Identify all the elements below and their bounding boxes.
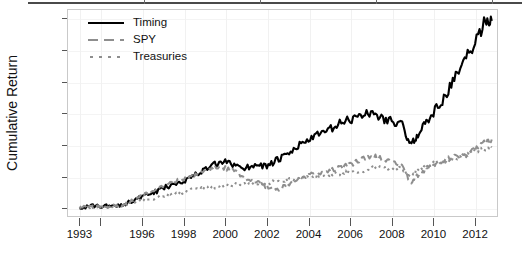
top-rule-divider <box>492 0 493 4</box>
legend-item-label: Treasuries <box>133 51 187 63</box>
legend-item-timing[interactable]: Timing <box>88 14 228 31</box>
x-axis-tick-label: 1993 <box>67 229 93 241</box>
legend-item-spy[interactable]: SPY <box>88 31 228 48</box>
x-axis-tick <box>100 218 101 226</box>
x-axis-tick <box>225 218 226 226</box>
y-axis-title-label: Cumulative Return <box>5 55 19 171</box>
x-axis-tick-label: 2008 <box>379 229 405 241</box>
x-axis-tick-label: 2010 <box>421 229 447 241</box>
x-axis-tick <box>392 218 393 226</box>
x-axis: 1993199619982000200220042006200820102012 <box>67 218 498 252</box>
document-top-rule <box>28 2 522 4</box>
legend-item-label: Timing <box>133 17 167 29</box>
x-axis-tick <box>79 218 80 226</box>
chart-figure: Cumulative Return 1993199619982000200220… <box>0 0 522 256</box>
x-axis-tick <box>184 218 185 226</box>
line-key-dotted-icon <box>88 52 124 62</box>
y-axis-tick-label: 12 <box>270 18 281 256</box>
x-axis-tick <box>142 218 143 226</box>
x-axis-tick <box>350 218 351 226</box>
chart-legend: TimingSPYTreasuries <box>88 14 228 65</box>
x-axis-tick <box>475 218 476 226</box>
top-rule-divider <box>144 0 145 4</box>
top-rule-divider <box>260 0 261 4</box>
x-axis-tick <box>267 218 268 226</box>
top-rule-divider <box>376 0 377 4</box>
legend-item-label: SPY <box>133 34 156 46</box>
legend-item-treasuries[interactable]: Treasuries <box>88 48 228 65</box>
y-axis <box>55 9 67 217</box>
x-axis-tick <box>309 218 310 226</box>
x-axis-tick-label: 2012 <box>462 229 488 241</box>
x-axis-tick-label: 2006 <box>337 229 363 241</box>
x-axis-tick-label: 1998 <box>171 229 197 241</box>
x-axis-tick-label: 2000 <box>212 229 238 241</box>
x-axis-tick-label: 2004 <box>296 229 322 241</box>
line-key-solid-icon <box>88 18 124 28</box>
x-axis-tick <box>433 218 434 226</box>
y-axis-title: Cumulative Return <box>4 9 20 217</box>
line-key-dashed-icon <box>88 35 124 45</box>
x-axis-tick-label: 1996 <box>129 229 155 241</box>
